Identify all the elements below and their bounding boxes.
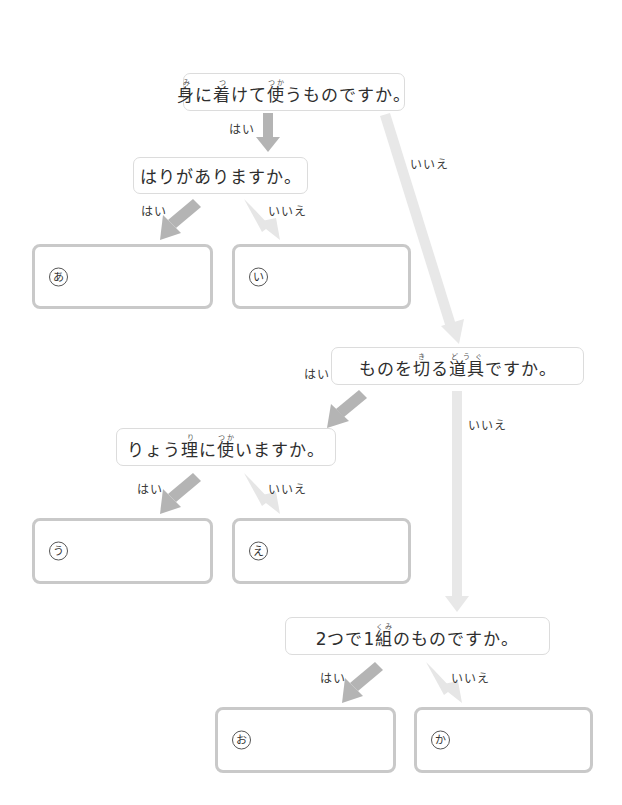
question-5-text: 2つで1組くみのものですか。 xyxy=(316,623,520,650)
question-4-box: りょう理りに使つかいますか。 xyxy=(116,428,336,466)
label-q5-yes: はい xyxy=(320,669,346,686)
answer-e-marker: え xyxy=(249,542,268,561)
question-1-text: 身みに着つけて使つかうものですか。 xyxy=(177,79,411,106)
question-1-box: 身みに着つけて使つかうものですか。 xyxy=(183,73,405,111)
answer-a-marker: あ xyxy=(49,267,68,286)
answer-box-ka[interactable]: か xyxy=(414,707,593,773)
answer-box-i[interactable]: い xyxy=(232,244,411,309)
question-3-text: ものを切きる道具どうぐですか。 xyxy=(359,353,557,380)
label-q4-no: いいえ xyxy=(268,480,307,497)
label-q3-yes: はい xyxy=(304,365,330,382)
arrow-q1-no xyxy=(380,113,464,344)
label-q4-yes: はい xyxy=(137,480,163,497)
label-q3-no: いいえ xyxy=(468,416,507,433)
answer-box-o[interactable]: お xyxy=(215,707,396,773)
answer-i-marker: い xyxy=(249,267,268,286)
label-q1-yes: はい xyxy=(229,120,255,137)
question-2-text: はりがありますか。 xyxy=(140,163,302,188)
question-2-box: はりがありますか。 xyxy=(133,157,308,194)
answer-o-marker: お xyxy=(232,731,251,750)
question-4-text: りょう理りに使つかいますか。 xyxy=(127,434,325,461)
answer-ka-marker: か xyxy=(431,731,450,750)
arrow-q3-yes xyxy=(327,390,367,428)
answer-box-u[interactable]: う xyxy=(32,518,213,584)
arrow-q3-no xyxy=(445,391,469,612)
label-q1-no: いいえ xyxy=(410,155,449,172)
label-q2-yes: はい xyxy=(141,202,167,219)
label-q2-no: いいえ xyxy=(268,202,307,219)
arrow-q5-yes xyxy=(342,662,383,703)
arrow-q1-yes xyxy=(256,113,280,152)
label-q5-no: いいえ xyxy=(451,669,490,686)
answer-box-e[interactable]: え xyxy=(232,518,411,584)
flow-arrows xyxy=(0,0,622,805)
answer-box-a[interactable]: あ xyxy=(32,244,213,309)
question-3-box: ものを切きる道具どうぐですか。 xyxy=(331,347,584,385)
question-5-box: 2つで1組くみのものですか。 xyxy=(285,617,550,655)
arrow-q4-yes xyxy=(160,473,201,514)
answer-u-marker: う xyxy=(49,542,68,561)
